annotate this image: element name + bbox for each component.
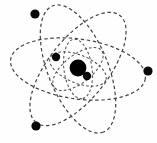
atom-diagram <box>0 0 157 143</box>
atom-svg <box>0 0 157 143</box>
electron-inner-lower-right-icon <box>83 72 91 80</box>
electron-right-icon <box>143 66 152 75</box>
electron-inner-upper-left-icon <box>52 53 60 61</box>
electron-top-left-icon <box>30 9 39 18</box>
electron-bottom-left-icon <box>31 121 40 130</box>
